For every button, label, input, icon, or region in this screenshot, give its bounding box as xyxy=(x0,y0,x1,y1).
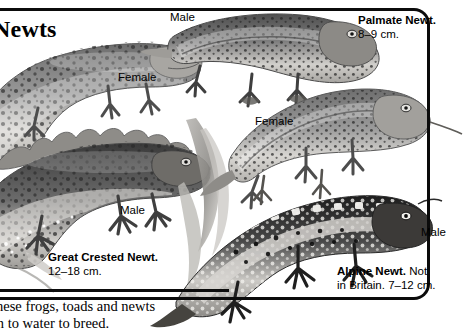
label-palmate-male: Male xyxy=(170,12,195,24)
footer-divider-rule xyxy=(0,289,229,292)
caption-great-crested-newt: Great Crested Newt. 12–18 cm. xyxy=(48,251,158,278)
label-crested-male: Male xyxy=(120,205,145,217)
label-alpine-male: Male xyxy=(421,227,446,239)
footer-line-1: these frogs, toads and newts xyxy=(0,298,155,314)
label-smooth-female: Female xyxy=(118,72,156,84)
caption-alpine-name: Alpine Newt. xyxy=(337,265,406,277)
figure-alpine-newt-male xyxy=(150,180,460,330)
figure-palmate-feet-detail xyxy=(254,170,330,204)
caption-great-crested-size: 12–18 cm. xyxy=(48,265,102,277)
caption-palmate-name: Palmate Newt. xyxy=(358,14,436,26)
caption-palmate-size: 8–9 cm. xyxy=(358,28,399,40)
caption-alpine-rest: Not xyxy=(409,265,427,277)
figure-smooth-newt-female xyxy=(0,36,220,176)
footer-text: these frogs, toads and newts rn to water… xyxy=(0,298,155,332)
label-palmate-female: Female xyxy=(255,116,293,128)
caption-alpine-line2: in Britain. 7–12 cm. xyxy=(337,279,435,291)
field-guide-page: Newts Male Female Female Male Male Palma… xyxy=(0,0,472,334)
caption-great-crested-name: Great Crested Newt. xyxy=(48,251,158,263)
page-title: Newts xyxy=(0,17,57,41)
caption-palmate-newt: Palmate Newt. 8–9 cm. xyxy=(358,14,436,41)
figure-palmate-newt-female xyxy=(200,82,462,208)
caption-alpine-newt: Alpine Newt. Not in Britain. 7–12 cm. xyxy=(337,265,435,292)
footer-line-2: rn to water to breed. xyxy=(0,315,109,331)
